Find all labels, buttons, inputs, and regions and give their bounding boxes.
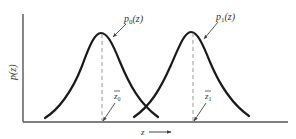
label-mean-z1: z1	[204, 91, 212, 102]
x-axis-label: z	[140, 127, 145, 137]
label-mean-z0: z0	[113, 91, 121, 102]
label-p0: p0(z)	[123, 13, 144, 26]
pointer-arrow-z1-icon	[194, 103, 206, 121]
pointer-arrow-p0-icon	[113, 24, 126, 37]
pointer-arrow-z0-icon	[103, 103, 115, 121]
curve-p1	[134, 32, 249, 117]
gaussian-diagram: p(z) z p0(z) p1(z) z0 z1	[0, 0, 296, 139]
y-axis-label: p(z)	[7, 64, 19, 81]
label-p1: p1(z)	[215, 11, 236, 24]
pointer-arrow-p1-icon	[204, 22, 218, 39]
